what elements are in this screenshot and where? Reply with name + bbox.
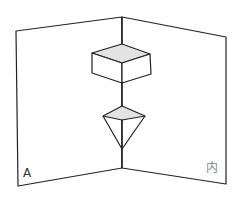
popup-card-figure	[0, 0, 241, 201]
left-panel	[16, 17, 122, 186]
label-a: A	[23, 167, 31, 179]
diagram: A 内	[0, 0, 241, 201]
right-panel	[122, 17, 226, 184]
label-inner: 内	[206, 162, 218, 174]
